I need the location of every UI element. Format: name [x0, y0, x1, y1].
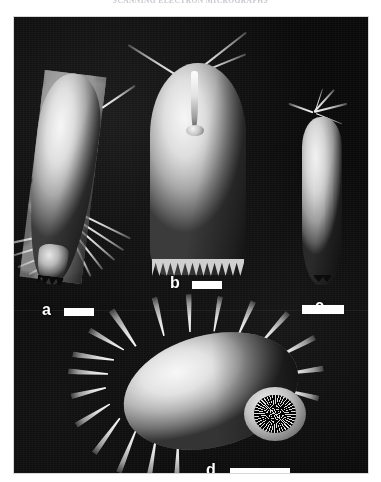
panel-b: b [126, 35, 276, 300]
running-header: SCANNING ELECTRON MICROGRAPHS [0, 0, 381, 10]
specimen-c-body [302, 117, 342, 285]
spine-icon [151, 296, 166, 336]
spine-icon [72, 351, 114, 363]
spine-icon [211, 296, 223, 332]
specimen-b-process-base [186, 125, 204, 136]
striation [324, 180, 325, 242]
scale-bar-d [230, 468, 290, 473]
figure-root: SCANNING ELECTRON MICROGRAPHS [0, 0, 381, 482]
panel-a: a [18, 63, 130, 308]
seta-icon [288, 103, 313, 113]
specimen-b-shading [150, 63, 246, 275]
panel-label-a: a [42, 302, 51, 318]
striation [314, 166, 315, 220]
specimen-a-body [20, 70, 107, 284]
panel-label-b: b [170, 275, 180, 291]
running-header-text: SCANNING ELECTRON MICROGRAPHS [0, 0, 381, 5]
specimen-d-aperture [254, 395, 296, 433]
spine-icon [68, 368, 108, 377]
micrograph-plate: a b [14, 17, 368, 473]
spine-icon [70, 385, 106, 399]
specimen-b-apical-process [191, 71, 198, 131]
striation [332, 172, 333, 220]
panel-label-d: d [206, 462, 216, 473]
spine-icon [88, 327, 126, 352]
spine-icon [92, 416, 123, 455]
specimen-b-body [150, 63, 246, 275]
scale-bar-b [192, 281, 222, 289]
panel-d: d [64, 313, 324, 471]
specimen-c-shading [302, 117, 342, 285]
panel-c: c [280, 91, 368, 306]
spine-icon [74, 401, 111, 427]
